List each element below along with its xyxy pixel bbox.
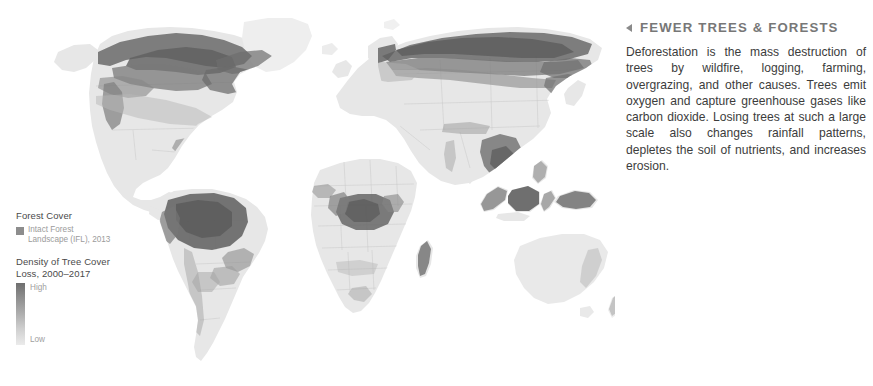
legend-ifl-swatch [16,227,24,235]
legend-ifl-row: Intact Forest Landscape (IFL), 2013 [16,225,112,245]
legend-ifl-label: Intact Forest Landscape (IFL), 2013 [28,225,112,245]
landmass-south-america [158,189,268,361]
land-japan [564,80,586,106]
map-legend: Forest Cover Intact Forest Landscape (IF… [16,210,112,356]
legend-density: Density of Tree Cover Loss, 2000–2017 Hi… [16,256,112,345]
density-gradient-bar [16,283,25,345]
legend-forest-cover: Forest Cover Intact Forest Landscape (IF… [16,210,112,245]
land-tasmania [580,306,594,318]
map-panel: Forest Cover Intact Forest Landscape (IF… [0,0,615,386]
density-high-label: High [30,283,47,293]
land-british-isles [332,60,352,78]
info-panel-header[interactable]: FEWER TREES & FORESTS [626,20,866,35]
loss-sumatra [481,187,507,211]
triangle-left-icon[interactable] [626,24,632,32]
density-gradient-labels: High Low [30,283,76,345]
legend-density-gradient: High Low [16,283,112,345]
land-iceland [322,43,338,55]
legend-forest-cover-title: Forest Cover [16,210,112,222]
landmass-africa [311,159,433,313]
legend-density-title: Density of Tree Cover Loss, 2000–2017 [16,256,112,280]
density-low-label: Low [30,335,45,345]
loss-borneo [508,186,539,211]
map-landmasses [54,18,615,361]
land-java [496,212,530,221]
info-panel-body: Deforestation is the mass destruction of… [626,44,866,174]
landmass-north-america [54,18,312,220]
info-panel: FEWER TREES & FORESTS Deforestation is t… [626,20,866,174]
land-svalbard [384,19,400,30]
info-panel-title: FEWER TREES & FORESTS [640,20,839,35]
landmass-oceania [480,160,615,318]
land-alaska [54,44,98,72]
